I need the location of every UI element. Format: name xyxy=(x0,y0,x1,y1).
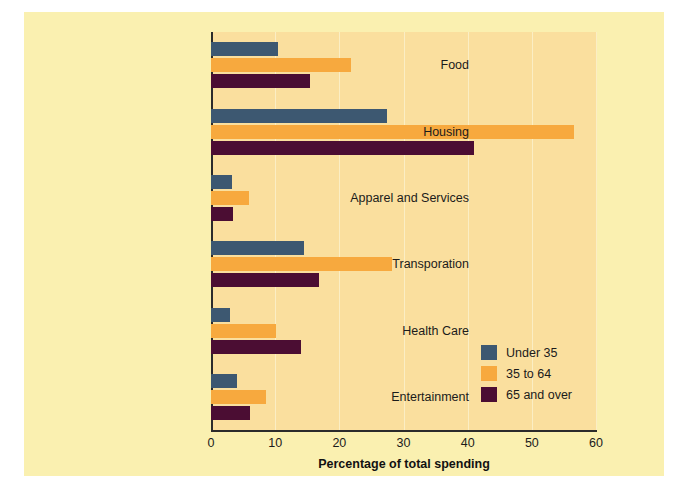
bar xyxy=(211,74,310,88)
legend-item: Under 35 xyxy=(481,342,572,363)
bar xyxy=(211,308,230,322)
legend-swatch-icon xyxy=(481,387,497,402)
category-label-transporation: Transporation xyxy=(24,257,469,271)
x-axis-line xyxy=(211,430,597,432)
bar xyxy=(211,241,304,255)
bar xyxy=(211,374,237,388)
gridline-10 xyxy=(275,32,276,430)
x-axis-title: Percentage of total spending xyxy=(211,457,597,471)
x-tick-0: 0 xyxy=(208,436,215,450)
category-label-entertainment: Entertainment xyxy=(24,390,469,404)
x-tick-20: 20 xyxy=(332,436,346,450)
bar xyxy=(211,340,301,354)
bar xyxy=(211,175,232,189)
category-label-food: Food xyxy=(24,58,469,72)
chart-figure: FoodHousingApparel and ServicesTranspora… xyxy=(24,12,664,476)
legend-swatch-icon xyxy=(481,345,497,360)
bar xyxy=(211,406,250,420)
gridline-30 xyxy=(404,32,405,430)
x-tick-50: 50 xyxy=(525,436,539,450)
legend-label: Under 35 xyxy=(506,346,557,360)
gridline-20 xyxy=(339,32,340,430)
legend-swatch-icon xyxy=(481,366,497,381)
bar xyxy=(211,141,474,155)
legend: Under 3535 to 6465 and over xyxy=(481,342,572,405)
legend-label: 35 to 64 xyxy=(506,367,551,381)
legend-label: 65 and over xyxy=(506,388,572,402)
bar xyxy=(211,273,319,287)
y-axis-line xyxy=(211,32,213,430)
category-label-apparel-and-services: Apparel and Services xyxy=(24,191,469,205)
page-bottom-strip xyxy=(0,476,688,489)
x-tick-40: 40 xyxy=(461,436,475,450)
gridline-60 xyxy=(596,32,597,430)
gridline-40 xyxy=(468,32,469,430)
bar xyxy=(211,109,387,123)
category-label-health-care: Health Care xyxy=(24,324,469,338)
legend-item: 65 and over xyxy=(481,384,572,405)
x-tick-10: 10 xyxy=(268,436,282,450)
x-tick-30: 30 xyxy=(397,436,411,450)
legend-item: 35 to 64 xyxy=(481,363,572,384)
category-label-housing: Housing xyxy=(24,125,469,139)
x-tick-60: 60 xyxy=(589,436,603,450)
bar xyxy=(211,42,278,56)
bar xyxy=(211,207,233,221)
